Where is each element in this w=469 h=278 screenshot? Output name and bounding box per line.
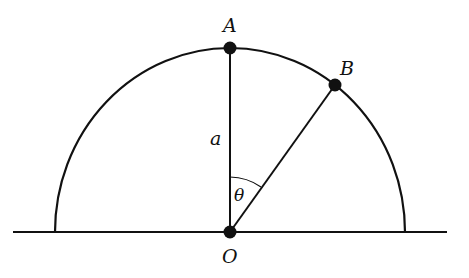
point-A [224,42,237,55]
point-B [329,79,342,92]
label-A: A [221,14,237,36]
label-theta: θ [234,185,244,205]
segment-OB [230,85,335,232]
semicircle-diagram: A B O a θ [0,0,469,278]
label-O: O [222,245,238,267]
point-O [224,226,237,239]
label-a: a [210,127,221,149]
label-B: B [339,57,354,79]
